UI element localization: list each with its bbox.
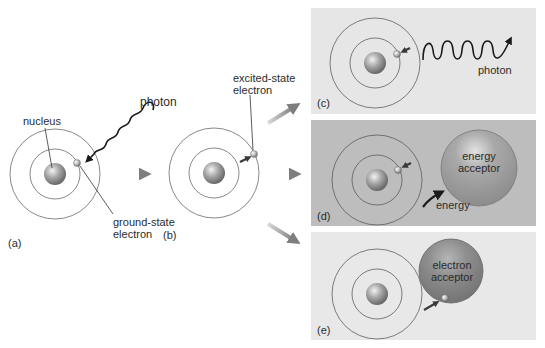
transferred-electron <box>442 295 449 302</box>
photon-excitation-diagram: nucleus photon ground-state electron (a)… <box>0 0 545 348</box>
electron-acceptor-label-line1: electron <box>432 259 471 271</box>
energy-label: energy <box>436 199 470 211</box>
ground-state-label-line2: electron <box>113 228 152 240</box>
nucleus-label: nucleus <box>23 115 61 127</box>
excited-state-electron <box>251 151 258 158</box>
panel-a-tag: (a) <box>8 237 21 249</box>
electron-d <box>395 167 402 174</box>
energy-acceptor-label-line2: acceptor <box>458 162 500 174</box>
excited-state-label-line2: electron <box>233 84 272 96</box>
nucleus-b <box>203 162 225 184</box>
ground-state-label-line1: ground-state <box>113 216 175 228</box>
energy-acceptor-label-line1: energy <box>462 150 496 162</box>
panel-c-tag: (c) <box>317 97 330 109</box>
nucleus-d <box>366 169 388 191</box>
excited-state-label-line1: excited-state <box>233 72 295 84</box>
panel-e-tag: (e) <box>317 324 330 336</box>
electron-c <box>394 51 401 58</box>
nucleus-c <box>364 52 386 74</box>
ground-state-electron <box>74 160 81 167</box>
panel-d-tag: (d) <box>317 210 330 222</box>
incoming-photon-wave <box>88 102 154 160</box>
arrow-b-to-e <box>268 224 294 240</box>
arrow-b-to-c <box>268 107 294 123</box>
diagram-graphics <box>0 0 545 348</box>
nucleus-e <box>366 283 388 305</box>
incoming-photon-label: photon <box>140 96 177 108</box>
panel-b-tag: (b) <box>163 229 176 241</box>
electron-acceptor-label-line2: acceptor <box>431 271 473 283</box>
nucleus-a <box>44 163 66 185</box>
atom-b <box>169 95 259 218</box>
emitted-photon-label: photon <box>478 64 512 76</box>
panel-c-background <box>311 8 536 114</box>
